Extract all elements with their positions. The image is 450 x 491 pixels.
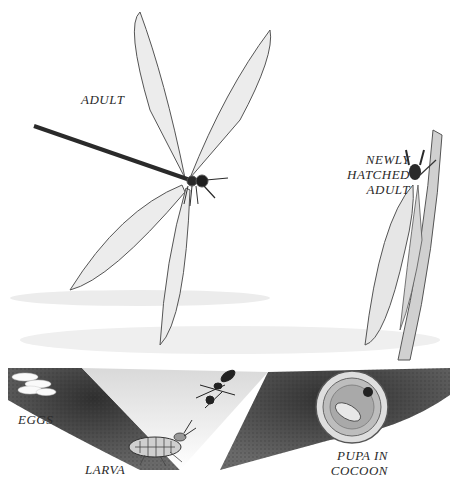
label-larva: LARVA: [85, 462, 125, 477]
label-pupa-line1: PUPA IN: [322, 448, 388, 463]
pupa-cocoon: [316, 371, 388, 443]
label-pupa-line2: COCOON: [322, 463, 388, 478]
label-eggs: EGGS: [18, 412, 53, 427]
antlion-lifecycle-illustration: ADULT NEWLY HATCHED ADULT EGGS LARVA PUP…: [0, 0, 450, 491]
label-adult: ADULT: [81, 92, 124, 107]
illustration-canvas: [0, 0, 450, 491]
label-pupa-in-cocoon: PUPA IN COCOON: [322, 448, 388, 478]
label-newly-hatched-adult: NEWLY HATCHED ADULT: [322, 152, 410, 197]
label-newly-hatched-line1: NEWLY: [322, 152, 410, 167]
label-newly-hatched-line3: ADULT: [322, 182, 410, 197]
label-newly-hatched-line2: HATCHED: [322, 167, 410, 182]
